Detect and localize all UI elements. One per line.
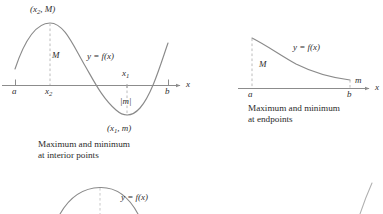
label-function-endpoints: y = f(x)	[293, 43, 320, 52]
label-max-value-endpoints: M	[259, 60, 267, 69]
panel-interior-points	[2, 23, 180, 116]
label-x1-tick-interior: x1	[122, 69, 129, 79]
math-figure-extreme-values: (x2, M) M y = f(x) x1 a x2 b x |m| (x1, …	[0, 0, 383, 214]
curve-interior	[15, 23, 168, 115]
label-min-point-interior: (x1, m)	[107, 124, 131, 134]
label-a-endpoints: a	[248, 90, 253, 99]
label-function-interior: y = f(x)	[87, 52, 114, 61]
caption-endpoints-line1: Maximum and minimum	[248, 103, 340, 113]
caption-interior-points: Maximum and minimumat interior points	[38, 139, 130, 162]
label-x2-tick-interior: x2	[45, 87, 52, 97]
label-max-point-interior: (x2, M)	[30, 5, 55, 15]
label-function-bottom-partial: y = f(x)	[121, 193, 148, 202]
label-x-axis-endpoints: x	[375, 83, 379, 92]
label-a-interior: a	[12, 87, 17, 96]
label-x-axis-interior: x	[186, 80, 190, 89]
label-b-endpoints: b	[347, 90, 352, 99]
caption-endpoints-line2: at endpoints	[248, 114, 293, 124]
label-min-value-endpoints: m	[355, 76, 362, 85]
label-b-interior: b	[165, 87, 170, 96]
panel-bottom-partial	[60, 183, 372, 214]
caption-endpoints: Maximum and minimumat endpoints	[248, 103, 340, 126]
label-max-value-interior: M	[52, 51, 60, 60]
label-abs-min-interior: |m|	[120, 97, 131, 106]
caption-interior-line2: at interior points	[38, 150, 99, 160]
curve-bottom-right-partial	[360, 183, 372, 214]
caption-interior-line1: Maximum and minimum	[38, 139, 130, 149]
